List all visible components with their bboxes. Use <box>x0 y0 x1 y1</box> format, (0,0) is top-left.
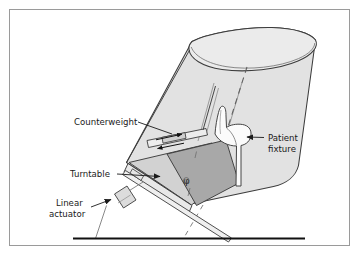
actuator-strut-lower <box>96 206 107 239</box>
linear-actuator-body <box>115 186 137 208</box>
linear-actuator-label-line2: actuator <box>49 209 86 219</box>
counterweight-label: Counterweight <box>74 117 138 127</box>
linear-actuator-leader <box>91 200 111 208</box>
linear-actuator-callout: Linear actuator <box>49 198 111 219</box>
figure-frame: φ <box>9 9 350 246</box>
turntable-label: Turntable <box>69 169 110 179</box>
linear-actuator-label-line1: Linear <box>56 198 83 208</box>
patient-fixture-leader <box>247 137 264 138</box>
patient-fixture-label-line1: Patient <box>268 133 299 143</box>
gantry-turntable-diagram: φ <box>10 10 351 247</box>
patient-fixture-label-line2: fixture <box>268 144 296 154</box>
